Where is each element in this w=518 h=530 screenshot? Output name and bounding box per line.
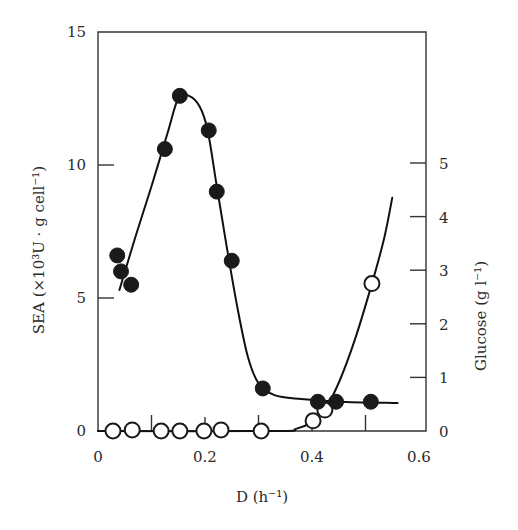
- sea-data-point: [172, 88, 187, 103]
- sea-data-point: [255, 381, 270, 396]
- x-tick-label: 0.2: [193, 448, 217, 466]
- x-tick-label: 0.6: [407, 448, 431, 466]
- y2-tick-label: 1: [439, 369, 449, 387]
- y2-tick-label: 4: [439, 209, 449, 227]
- glucose-data-point: [254, 424, 269, 439]
- glucose-fit-curve: [98, 198, 392, 431]
- glucose-data-point: [172, 424, 187, 439]
- y-tick-label: 5: [76, 289, 86, 307]
- y-axis-title: SEA (×10³U · g cell⁻¹): [30, 166, 48, 334]
- y-tick-label: 10: [67, 156, 86, 174]
- glucose-data-point: [364, 276, 379, 291]
- sea-fit-curve: [119, 94, 397, 403]
- chart: 05101501234500.20.40.6 D (h⁻¹) SEA (×10³…: [0, 0, 518, 530]
- glucose-data-point: [214, 422, 229, 437]
- plot-border: [98, 32, 426, 431]
- y2-tick-label: 2: [439, 316, 449, 334]
- axis-ticks: 05101501234500.20.40.6: [67, 23, 449, 466]
- glucose-data-point: [105, 424, 120, 439]
- y2-axis-title: Glucose (g l⁻¹): [472, 261, 490, 371]
- fit-curves: [98, 94, 398, 431]
- sea-data-point: [363, 394, 378, 409]
- sea-data-point: [310, 394, 325, 409]
- x-tick-label: 0: [93, 448, 103, 466]
- plot-frame: [98, 32, 426, 431]
- y2-tick-label: 5: [439, 155, 449, 173]
- sea-data-point: [124, 277, 139, 292]
- sea-data-point: [329, 394, 344, 409]
- sea-data-point: [209, 184, 224, 199]
- glucose-data-point: [154, 424, 169, 439]
- y2-tick-label: 3: [439, 262, 449, 280]
- glucose-data-point: [306, 413, 321, 428]
- x-axis-title: D (h⁻¹): [236, 488, 288, 506]
- glucose-data-point: [125, 422, 140, 437]
- sea-data-point: [224, 253, 239, 268]
- y2-tick-label: 0: [439, 423, 449, 441]
- sea-data-point: [201, 123, 216, 138]
- y-tick-label: 15: [67, 23, 86, 41]
- sea-data-point: [157, 142, 172, 157]
- glucose-data-point: [196, 424, 211, 439]
- sea-data-point: [110, 248, 125, 263]
- y-tick-label: 0: [76, 422, 86, 440]
- x-tick-label: 0.4: [300, 448, 324, 466]
- sea-data-point: [114, 264, 129, 279]
